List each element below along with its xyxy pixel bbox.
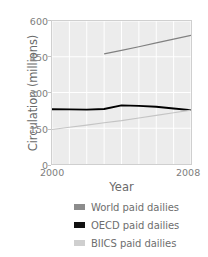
legend-item-oecd: OECD paid dailies [0,216,208,234]
x-tick-label-2000: 2000 [40,168,64,178]
legend-label-biics: BIICS paid dailies [91,238,176,249]
y-tick-mark-0 [47,165,51,166]
y-tick-label-150: 150 [12,125,48,135]
y-tick-label-600: 600 [12,17,48,27]
series-line-world [104,35,191,54]
x-axis-label: Year [51,180,192,194]
y-tick-label-300: 300 [12,89,48,99]
plot-area [51,20,192,165]
legend-label-oecd: OECD paid dailies [91,220,179,231]
legend-swatch-world [74,204,85,210]
plot-svg [52,21,191,164]
gridlines [52,21,191,164]
chart-legend: World paid dailies OECD paid dailies BII… [0,198,208,252]
legend-label-world: World paid dailies [91,202,179,213]
legend-item-biics: BIICS paid dailies [0,234,208,252]
legend-swatch-oecd [74,222,85,228]
legend-swatch-biics [74,240,85,246]
x-tick-label-2008: 2008 [176,168,200,178]
y-tick-label-450: 450 [12,53,48,63]
chart-figure: Circulation (millions) 600 450 300 150 0… [0,0,208,257]
legend-item-world: World paid dailies [0,198,208,216]
